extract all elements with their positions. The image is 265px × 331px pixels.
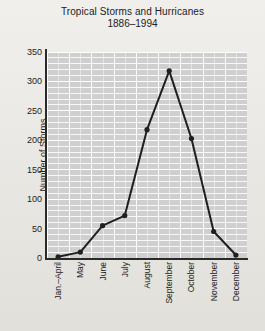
y-tick-label: 350 [27, 48, 42, 57]
chart-page: Tropical Storms and Hurricanes 1886–1994… [0, 0, 265, 331]
data-point-marker [233, 252, 238, 257]
x-tick-label: November [209, 262, 218, 301]
chart-title: Tropical Storms and Hurricanes [0, 6, 265, 18]
data-point-marker [211, 229, 216, 234]
y-tick-label: 100 [27, 195, 42, 204]
y-tick-label: 0 [37, 254, 42, 263]
data-point-marker [167, 68, 172, 73]
x-tick-label: July [120, 262, 129, 277]
y-axis-line [45, 49, 47, 259]
y-tick-label: 50 [32, 224, 42, 233]
y-tick-label: 250 [27, 106, 42, 115]
y-tick-label: 300 [27, 77, 42, 86]
x-tick-label: December [231, 262, 240, 301]
x-tick-label: August [143, 262, 152, 288]
x-tick-label: October [187, 262, 196, 292]
data-point-marker [100, 223, 105, 228]
plot-area [47, 52, 247, 258]
x-tick-label: June [98, 262, 107, 280]
data-point-marker [144, 127, 149, 132]
data-point-marker [189, 136, 194, 141]
x-axis-line [45, 258, 248, 260]
series-polyline [58, 71, 236, 257]
chart-area: Number of Storms 050100150200250300350 J… [47, 52, 247, 258]
y-tick-label: 150 [27, 165, 42, 174]
data-series-line [47, 52, 247, 258]
x-tick-label: Jan.–April [54, 262, 63, 300]
x-tick-label: May [76, 262, 85, 278]
chart-subtitle: 1886–1994 [0, 18, 265, 30]
data-point-marker [78, 250, 83, 255]
x-tick-label: September [165, 262, 174, 304]
y-tick-label: 200 [27, 136, 42, 145]
data-point-marker [122, 213, 127, 218]
chart-title-block: Tropical Storms and Hurricanes 1886–1994 [0, 6, 265, 30]
